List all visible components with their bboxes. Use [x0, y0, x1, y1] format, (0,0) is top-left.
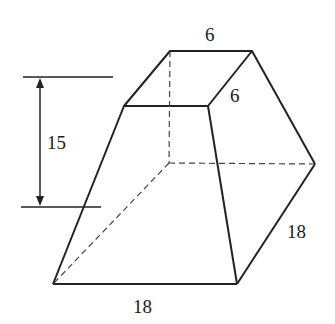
- hidden-edge-bottom-back: [169, 163, 315, 164]
- label-top-side: 6: [230, 86, 240, 105]
- hidden-edge-bottom-left: [53, 163, 169, 284]
- label-bottom-front: 18: [133, 297, 152, 316]
- frustum-diagram: [0, 0, 335, 324]
- arrowhead-up-icon: [36, 78, 44, 88]
- arrowhead-down-icon: [36, 196, 44, 206]
- edge-front-right: [208, 106, 237, 284]
- label-top-back: 6: [205, 25, 215, 44]
- edge-back-right: [252, 51, 315, 164]
- label-bottom-side: 18: [287, 222, 306, 241]
- label-height: 15: [47, 133, 66, 152]
